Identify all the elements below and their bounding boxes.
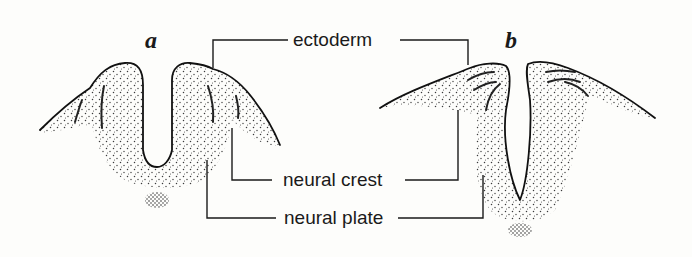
panel-label-a: a [145,27,157,53]
label-neural-crest: neural crest [283,169,383,190]
neural-tube-diagram: a b ectoderm neural crest [0,0,692,257]
label-ectoderm-group: ectoderm [213,29,468,68]
panel-b-notochord [508,223,532,237]
panel-label-b: b [505,27,517,53]
panel-a-notochord [145,192,169,208]
label-ectoderm: ectoderm [293,29,372,50]
panel-b-neural-folds [380,62,655,237]
panel-b-ectoderm-outline-left [380,62,655,200]
label-neural-plate: neural plate [284,207,383,228]
panel-a-neural-groove [40,63,280,208]
